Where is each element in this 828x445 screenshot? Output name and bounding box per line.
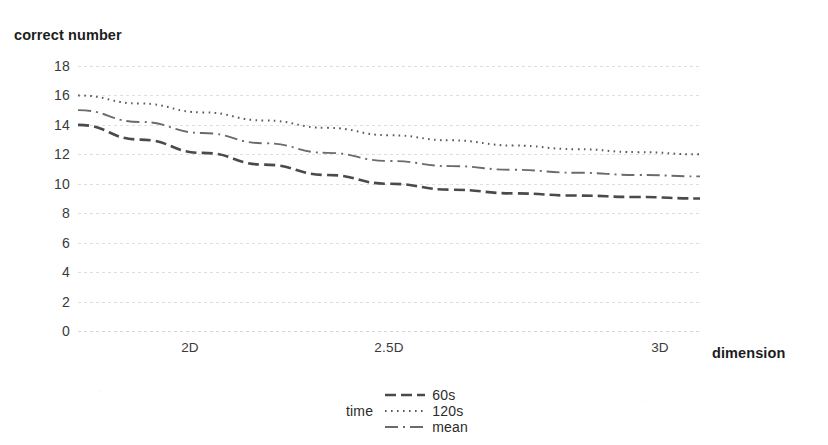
legend-swatch-60s: [385, 390, 425, 400]
y-tick-label: 14: [12, 117, 70, 133]
plot-area: 024681012141618: [78, 66, 700, 331]
legend-item-60s[interactable]: 60s: [385, 387, 468, 403]
legend-label-mean: mean: [432, 419, 468, 435]
series-line-mean: [78, 110, 700, 176]
chart-legend: time 60s120smean: [0, 387, 828, 435]
y-tick-label: 4: [12, 264, 70, 280]
legend-swatch-120s: [385, 406, 425, 416]
x-tick-label: 2D: [181, 340, 199, 355]
y-tick-label: 6: [12, 235, 70, 251]
legend-item-mean[interactable]: mean: [385, 419, 468, 435]
gridline: [78, 331, 700, 332]
x-tick-label: 2.5D: [374, 340, 403, 355]
y-tick-label: 18: [12, 58, 70, 74]
legend-title: time: [346, 403, 373, 419]
y-tick-label: 12: [12, 146, 70, 162]
y-tick-label: 16: [12, 87, 70, 103]
series-lines: [78, 66, 700, 331]
legend-label-60s: 60s: [432, 387, 455, 403]
legend-label-120s: 120s: [432, 403, 463, 419]
legend-item-120s[interactable]: 120s: [385, 403, 468, 419]
x-axis-title: dimension: [712, 345, 785, 361]
y-tick-label: 2: [12, 294, 70, 310]
x-tick-label: 3D: [651, 340, 669, 355]
line-chart-figure: correct number dimension 024681012141618…: [0, 0, 828, 445]
legend-swatch-mean: [385, 422, 425, 432]
series-line-60s: [78, 125, 700, 199]
y-tick-label: 8: [12, 205, 70, 221]
y-tick-label: 10: [12, 176, 70, 192]
legend-items: 60s120smean: [385, 387, 482, 435]
y-tick-label: 0: [12, 323, 70, 339]
y-axis-title: correct number: [14, 27, 122, 43]
